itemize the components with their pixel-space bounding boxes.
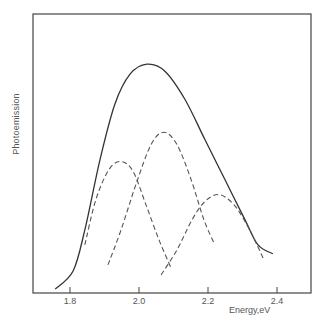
- x-tick-label: 2.0: [133, 296, 146, 306]
- series-component-3: [161, 195, 264, 275]
- x-tick-label: 2.2: [202, 296, 215, 306]
- y-axis-label: Photoemission: [11, 93, 21, 155]
- series-group: [55, 64, 273, 289]
- plot-frame: [33, 14, 311, 293]
- series-component-1: [85, 161, 171, 268]
- x-tick-label: 2.4: [271, 296, 284, 306]
- x-axis-ticks: [70, 287, 277, 293]
- series-component-2: [108, 132, 214, 265]
- x-axis-label: Energy,eV: [229, 305, 270, 315]
- series-total: [55, 64, 273, 289]
- chart: [0, 0, 328, 330]
- x-tick-label: 1.8: [64, 296, 77, 306]
